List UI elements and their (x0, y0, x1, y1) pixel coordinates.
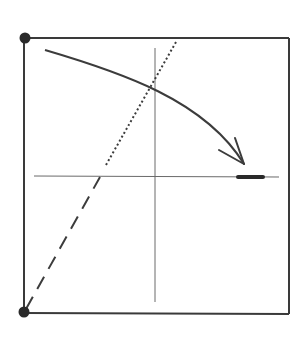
corner-dot-bottom-left (19, 307, 30, 318)
diagram-canvas (0, 0, 306, 337)
frame-bottom-edge (24, 313, 289, 314)
dotted-line (106, 42, 176, 165)
curved-arrow (45, 50, 244, 164)
dashed-line (26, 177, 100, 309)
corner-dot-top-left (20, 33, 31, 44)
